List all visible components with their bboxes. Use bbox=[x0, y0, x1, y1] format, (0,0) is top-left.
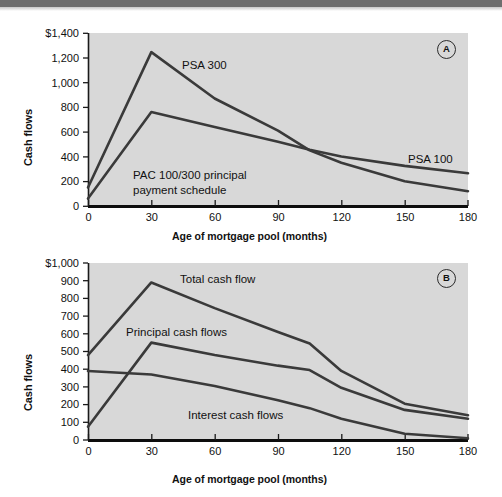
panel-b-xtick-180: 180 bbox=[459, 445, 477, 457]
panel-a-ytick-1000: 1,000 bbox=[51, 77, 79, 89]
panel-a-ytick-600: 600 bbox=[61, 126, 79, 138]
panel-b-y-axis-title: Cash flows bbox=[22, 354, 34, 411]
panel-b-ytick-1000: $1,000 bbox=[45, 257, 79, 269]
panel-a-xtick-90: 90 bbox=[272, 211, 284, 223]
panel-b-ytick-600: 600 bbox=[61, 328, 79, 340]
panel-b-xtick-30: 30 bbox=[146, 445, 158, 457]
panel-b-xtick-60: 60 bbox=[209, 445, 221, 457]
panel-b-xtick-90: 90 bbox=[272, 445, 284, 457]
panel-b-label-principal: Principal cash flows bbox=[126, 326, 227, 338]
panel-a-ytick-1200: 1,200 bbox=[51, 52, 79, 64]
page-top-band bbox=[0, 0, 502, 7]
panel-b-ytick-100: 100 bbox=[61, 416, 79, 428]
panel-b-y-tick-labels: 0 100 200 300 400 500 600 700 800 900 $1… bbox=[45, 257, 79, 446]
chart-panel-b: Cash flows Age of mortgage pool (months)… bbox=[0, 251, 502, 497]
panel-a-xtick-0: 0 bbox=[85, 211, 91, 223]
panel-a-ytick-800: 800 bbox=[61, 101, 79, 113]
panel-b-xtick-0: 0 bbox=[85, 445, 91, 457]
panel-a-plot: 0 200 400 600 800 1,000 1,200 $1,400 0 3… bbox=[0, 11, 502, 251]
panel-a-ytick-400: 400 bbox=[61, 151, 79, 163]
panel-a-xtick-180: 180 bbox=[459, 211, 477, 223]
panel-a-y-axis-title: Cash flows bbox=[22, 109, 34, 166]
panel-a-y-ticks bbox=[83, 33, 88, 206]
panel-b-xtick-120: 120 bbox=[333, 445, 351, 457]
figure-page: Cash flows Age of mortgage pool (months)… bbox=[0, 0, 502, 497]
panel-b-ytick-900: 900 bbox=[61, 275, 79, 287]
panel-a-y-tick-labels: 0 200 400 600 800 1,000 1,200 $1,400 bbox=[45, 27, 79, 212]
panel-b-x-axis-title: Age of mortgage pool (months) bbox=[172, 473, 327, 485]
panel-a-label-psa300: PSA 300 bbox=[182, 59, 227, 71]
panel-b-x-tick-labels: 0 30 60 90 120 150 180 bbox=[85, 445, 477, 457]
panel-a-x-axis-title: Age of mortgage pool (months) bbox=[172, 230, 327, 242]
panel-b-y-ticks bbox=[83, 263, 88, 440]
panel-b-label-interest: Interest cash flows bbox=[188, 409, 283, 421]
panel-b-xtick-150: 150 bbox=[396, 445, 414, 457]
panel-a-label-pac-line1: PAC 100/300 principal bbox=[133, 169, 247, 181]
panel-a-ytick-0: 0 bbox=[73, 200, 79, 212]
panel-a-badge: A bbox=[437, 40, 456, 59]
panel-a-label-psa100: PSA 100 bbox=[408, 153, 453, 165]
panel-a-label-pac-line2: payment schedule bbox=[133, 184, 226, 196]
panel-a-ytick-1400: $1,400 bbox=[45, 27, 79, 39]
panel-b-ytick-400: 400 bbox=[61, 363, 79, 375]
panel-a-x-tick-labels: 0 30 60 90 120 150 180 bbox=[85, 211, 477, 223]
panel-b-ytick-700: 700 bbox=[61, 310, 79, 322]
chart-panel-a: Cash flows Age of mortgage pool (months)… bbox=[0, 11, 502, 251]
panel-b-plot: 0 100 200 300 400 500 600 700 800 900 $1… bbox=[0, 251, 502, 497]
panel-b-badge: B bbox=[437, 269, 456, 288]
panel-b-ytick-300: 300 bbox=[61, 381, 79, 393]
panel-a-xtick-30: 30 bbox=[146, 211, 158, 223]
panel-a-ytick-200: 200 bbox=[61, 175, 79, 187]
panel-a-xtick-150: 150 bbox=[396, 211, 414, 223]
panel-a-xtick-60: 60 bbox=[209, 211, 221, 223]
panel-a-xtick-120: 120 bbox=[333, 211, 351, 223]
panel-b-ytick-0: 0 bbox=[73, 434, 79, 446]
panel-b-label-total: Total cash flow bbox=[180, 273, 256, 285]
panel-b-ytick-200: 200 bbox=[61, 398, 79, 410]
panel-b-ytick-500: 500 bbox=[61, 345, 79, 357]
panel-b-ytick-800: 800 bbox=[61, 292, 79, 304]
